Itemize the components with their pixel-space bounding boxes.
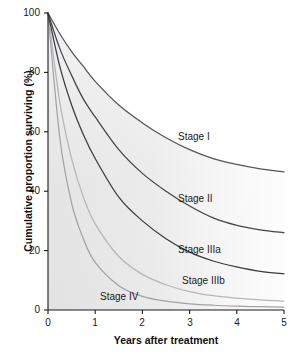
y-axis-title: Cumulative proportion surviving (%)	[22, 61, 34, 261]
x-axis-title: Years after treatment	[48, 334, 284, 346]
x-tick-label-3: 3	[182, 317, 198, 328]
x-tick-label-4: 4	[229, 317, 245, 328]
series-label-stage-iv: Stage IV	[100, 291, 138, 302]
chart-plot-area	[0, 0, 291, 357]
series-label-stage-iiib: Stage IIIb	[182, 275, 225, 286]
series-label-stage-iiia: Stage IIIa	[178, 244, 221, 255]
plot-background-highlight	[48, 13, 284, 310]
survival-curve-chart: 100 80 60 40 20 0 0 1 2 3 4 5 Cumulative…	[0, 0, 291, 357]
x-tick-label-1: 1	[87, 317, 103, 328]
series-label-stage-i: Stage I	[178, 131, 210, 142]
y-tick-label-0: 0	[14, 304, 40, 315]
y-tick-label-100: 100	[14, 7, 40, 18]
x-tick-label-0: 0	[40, 317, 56, 328]
x-tick-label-5: 5	[276, 317, 291, 328]
series-label-stage-ii: Stage II	[178, 193, 212, 204]
x-tick-label-2: 2	[134, 317, 150, 328]
